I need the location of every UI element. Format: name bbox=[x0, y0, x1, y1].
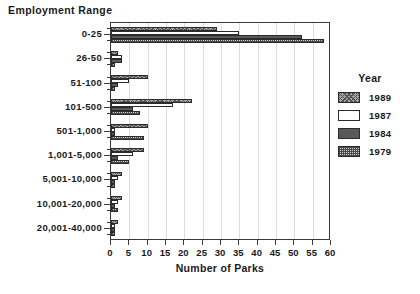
category-minor-tick bbox=[107, 137, 110, 138]
bar bbox=[111, 39, 324, 43]
x-tick-label: 40 bbox=[251, 247, 262, 258]
x-axis-title: Number of Parks bbox=[110, 262, 330, 274]
bar-group bbox=[111, 27, 329, 44]
x-tick bbox=[202, 240, 203, 245]
legend: Year 1989198719841979 bbox=[338, 72, 418, 164]
bar-group bbox=[111, 124, 329, 141]
empty-swatch bbox=[338, 110, 360, 121]
category-minor-tick bbox=[107, 179, 110, 180]
bar-group bbox=[111, 172, 329, 189]
bar-group bbox=[111, 51, 329, 68]
legend-item-label: 1989 bbox=[369, 92, 391, 103]
category-minor-tick bbox=[107, 155, 110, 156]
bars-layer bbox=[111, 23, 329, 239]
bar bbox=[111, 63, 115, 67]
category-label: 26-50 bbox=[2, 52, 102, 63]
category-minor-tick bbox=[107, 149, 110, 150]
x-tick bbox=[165, 240, 166, 245]
category-label: 101-500 bbox=[2, 101, 102, 112]
category-label: 0-25 bbox=[2, 28, 102, 39]
category-minor-tick bbox=[107, 64, 110, 65]
x-tick-label: 30 bbox=[215, 247, 226, 258]
category-minor-tick bbox=[107, 186, 110, 187]
category-minor-tick bbox=[107, 222, 110, 223]
category-minor-tick bbox=[107, 234, 110, 235]
category-minor-tick bbox=[107, 58, 110, 59]
x-tick bbox=[293, 240, 294, 245]
category-minor-tick bbox=[107, 173, 110, 174]
x-tick bbox=[238, 240, 239, 245]
x-tick bbox=[110, 240, 111, 245]
bar-chart: Employment Range 0-2526-5051-100101-5005… bbox=[0, 0, 420, 294]
bar bbox=[111, 232, 115, 236]
legend-title: Year bbox=[338, 72, 402, 84]
category-minor-tick bbox=[107, 28, 110, 29]
x-tick-label: 45 bbox=[270, 247, 281, 258]
category-minor-tick bbox=[107, 198, 110, 199]
dotgrid-swatch bbox=[338, 146, 360, 157]
x-tick-label: 0 bbox=[107, 247, 112, 258]
x-tick bbox=[312, 240, 313, 245]
x-tick-label: 10 bbox=[141, 247, 152, 258]
x-tick-label: 35 bbox=[233, 247, 244, 258]
bar bbox=[111, 184, 115, 188]
bar bbox=[111, 208, 118, 212]
legend-item[interactable]: 1979 bbox=[338, 146, 418, 157]
category-label: 5,001-10,000 bbox=[2, 173, 102, 184]
x-tick bbox=[147, 240, 148, 245]
category-label: 1,001-5,000 bbox=[2, 149, 102, 160]
category-minor-tick bbox=[107, 107, 110, 108]
bar bbox=[111, 87, 115, 91]
x-tick bbox=[220, 240, 221, 245]
bar-group bbox=[111, 196, 329, 213]
x-tick bbox=[275, 240, 276, 245]
category-minor-tick bbox=[107, 204, 110, 205]
category-minor-tick bbox=[107, 40, 110, 41]
category-minor-tick bbox=[107, 161, 110, 162]
legend-item[interactable]: 1987 bbox=[338, 110, 418, 121]
x-tick bbox=[183, 240, 184, 245]
x-tick-label: 25 bbox=[196, 247, 207, 258]
legend-item-label: 1984 bbox=[369, 128, 391, 139]
category-minor-tick bbox=[107, 131, 110, 132]
category-minor-tick bbox=[107, 125, 110, 126]
x-tick-label: 20 bbox=[178, 247, 189, 258]
x-tick-label: 55 bbox=[306, 247, 317, 258]
crosshatch-swatch bbox=[338, 92, 360, 103]
category-minor-tick bbox=[107, 228, 110, 229]
legend-item[interactable]: 1984 bbox=[338, 128, 418, 139]
category-label: 51-100 bbox=[2, 77, 102, 88]
bar bbox=[111, 124, 148, 128]
category-minor-tick bbox=[107, 77, 110, 78]
category-minor-tick bbox=[107, 34, 110, 35]
bar-group bbox=[111, 75, 329, 92]
x-tick-label: 5 bbox=[126, 247, 131, 258]
category-minor-tick bbox=[107, 101, 110, 102]
category-minor-tick bbox=[107, 210, 110, 211]
category-label: 10,001-20,000 bbox=[2, 198, 102, 209]
legend-item-label: 1979 bbox=[369, 146, 391, 157]
bar-group bbox=[111, 99, 329, 116]
bar bbox=[111, 136, 144, 140]
plot-area bbox=[110, 22, 330, 240]
bar-group bbox=[111, 148, 329, 165]
x-tick-label: 60 bbox=[325, 247, 336, 258]
x-tick bbox=[128, 240, 129, 245]
x-tick-label: 15 bbox=[160, 247, 171, 258]
category-label: 20,001-40,000 bbox=[2, 222, 102, 233]
bar-group bbox=[111, 220, 329, 237]
x-tick-label: 50 bbox=[288, 247, 299, 258]
category-label: 501-1,000 bbox=[2, 125, 102, 136]
category-minor-tick bbox=[107, 83, 110, 84]
category-minor-tick bbox=[107, 113, 110, 114]
solid-dark-swatch bbox=[338, 128, 360, 139]
legend-item[interactable]: 1989 bbox=[338, 92, 418, 103]
category-minor-tick bbox=[107, 89, 110, 90]
bar bbox=[111, 160, 129, 164]
x-tick bbox=[330, 240, 331, 245]
y-axis-title: Employment Range bbox=[8, 4, 112, 16]
bar bbox=[111, 111, 140, 115]
category-minor-tick bbox=[107, 52, 110, 53]
x-tick bbox=[257, 240, 258, 245]
legend-item-label: 1987 bbox=[369, 110, 391, 121]
